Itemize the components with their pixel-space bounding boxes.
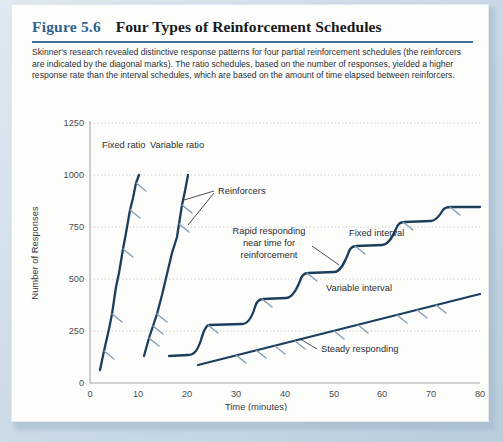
x-tick-70: 70 [426,389,436,399]
reinforcer-mark [153,326,163,334]
x-tick-0: 0 [87,389,92,399]
reinforcer-mark [123,249,133,257]
reinforcer-mark [236,355,246,363]
fixed-ratio-line [100,175,139,370]
steady-responding-label: Steady responding [321,344,399,354]
figure-title-line: Figure 5.6 Four Types of Reinforcement S… [32,17,472,37]
figure-card: Figure 5.6 Four Types of Reinforcement S… [11,4,489,422]
reinforcer-mark [136,183,146,191]
fixed-ratio-reinforcer-marks [104,183,146,359]
reinforcer-mark [104,351,114,359]
reinforcer-mark [179,224,189,232]
reinforcer-mark [450,207,460,215]
variable-ratio-label: Variable ratio [150,140,204,150]
y-tick-1000: 1000 [64,170,84,180]
fixed-ratio-label: Fixed ratio [102,140,145,150]
fixed-interval-label: Fixed interval [349,228,404,238]
figure-caption: Skinner's research revealed distinctive … [32,47,475,82]
chart-plot-area: 1250 1000 750 500 250 0 0 10 20 30 40 50… [12,101,489,411]
reinforcer-mark [295,341,305,349]
rapid-responding-label: Rapid responding near time for reinforce… [233,226,306,260]
reinforcers-label: Reinforcers [218,186,266,196]
series-variable-interval [198,294,480,365]
x-tick-20: 20 [182,389,192,399]
reinforcer-mark [157,314,167,322]
y-tick-250: 250 [69,326,84,336]
y-axis-ticks: 1250 1000 750 500 250 0 [64,118,84,388]
reinforcer-mark [149,338,159,346]
reinforcer-mark [112,314,122,322]
reinforcer-mark [358,325,368,333]
reinforcer-mark [275,346,285,354]
figure-header: Figure 5.6 Four Types of Reinforcement S… [32,17,472,37]
rapid-responding-line-2: near time for [243,238,295,248]
reinforcement-schedules-chart: 1250 1000 750 500 250 0 0 10 20 30 40 50… [12,101,489,411]
series-variable-ratio [144,175,192,356]
page-background: Figure 5.6 Four Types of Reinforcement S… [0,0,503,442]
y-tick-750: 750 [69,222,84,232]
variable-interval-line [198,294,480,365]
rapid-responding-line-1: Rapid responding [233,226,306,236]
y-tick-1250: 1250 [64,118,84,128]
x-tick-50: 50 [329,389,339,399]
reinforcer-mark [397,315,407,323]
x-tick-30: 30 [231,389,241,399]
x-tick-10: 10 [133,389,143,399]
reinforcer-mark [262,299,272,307]
reinforcer-mark [334,331,344,339]
x-tick-80: 80 [475,389,485,399]
reinforcer-mark [403,222,413,230]
x-tick-60: 60 [377,389,387,399]
figure-number: Figure 5.6 [32,18,101,35]
variable-ratio-reinforcer-marks [149,205,192,346]
x-axis-ticks: 0 10 20 30 40 50 60 70 80 [87,389,485,399]
rapid-responding-line-3: reinforcement [241,250,298,260]
reinforcer-mark [182,205,192,213]
reinforcer-mark [307,273,317,281]
rapid-responding-leader [312,246,339,265]
x-tick-40: 40 [280,389,290,399]
variable-interval-label: Variable interval [326,283,392,293]
title-underline [32,41,473,43]
y-tick-500: 500 [69,274,84,284]
variable-interval-reinforcer-marks [236,305,446,363]
y-axis-title: Number of Responses [29,206,40,300]
reinforcer-mark [130,210,140,218]
y-tick-0: 0 [79,378,84,388]
figure-title: Four Types of Reinforcement Schedules [116,18,382,35]
reinforcer-mark [417,310,427,318]
reinforcer-mark [355,246,365,254]
variable-ratio-line [144,175,188,356]
reinforcer-mark [208,325,218,333]
reinforcer-mark [436,305,446,313]
x-axis-title: Time (minutes) [225,401,287,411]
reinforcer-mark [256,350,266,358]
series-fixed-ratio [100,175,146,370]
